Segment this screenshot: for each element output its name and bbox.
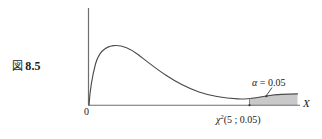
critical-value-tick (248, 104, 250, 106)
x-axis-label: X (303, 97, 310, 109)
chi-square-distribution-plot (0, 0, 322, 139)
axis-origin-label: 0 (84, 106, 89, 117)
chi-arguments: (5 ; 0.05) (224, 114, 261, 125)
figure-container: 図8.5 0 X α = 0.05 χ2(5 ; 0.05) (0, 0, 322, 139)
alpha-annotation-label: α = 0.05 (252, 77, 285, 88)
alpha-symbol: α (252, 77, 257, 88)
critical-value-annotation-label: χ2(5 ; 0.05) (216, 113, 261, 125)
alpha-value: 0.05 (268, 77, 286, 88)
alpha-equals-sign: = (260, 77, 266, 88)
